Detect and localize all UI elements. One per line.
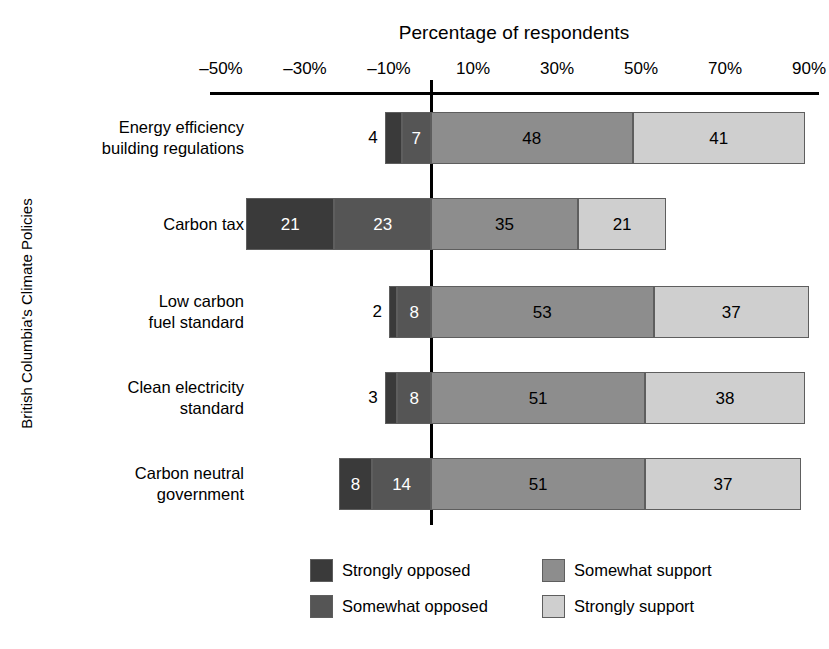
bar-segment (385, 112, 402, 164)
bar-row: 8145137 (0, 458, 829, 510)
legend-swatch-icon (310, 559, 333, 582)
bar-segment: 7 (402, 112, 431, 164)
bar-segment: 8 (339, 458, 373, 510)
bar-segment: 51 (431, 372, 645, 424)
bar-segment: 21 (578, 198, 666, 250)
legend-label: Somewhat opposed (342, 597, 488, 616)
chart-legend: Strongly opposedSomewhat supportSomewhat… (310, 552, 750, 624)
bar-segment: 48 (431, 112, 633, 164)
bar-segment-value-label: 2 (349, 286, 389, 338)
bar-segment: 21 (246, 198, 334, 250)
bar-segment: 8 (397, 286, 431, 338)
legend-swatch-icon (542, 595, 565, 618)
bar-segment: 41 (633, 112, 805, 164)
bar-segment: 53 (431, 286, 654, 338)
legend-label: Somewhat support (574, 561, 712, 580)
bar-segment: 14 (372, 458, 431, 510)
bar-row: 385138 (0, 372, 829, 424)
legend-item[interactable]: Strongly support (542, 595, 750, 618)
bar-row: 21233521 (0, 198, 829, 250)
bar-segment: 8 (397, 372, 431, 424)
bar-segment: 37 (645, 458, 800, 510)
bar-segment: 35 (431, 198, 578, 250)
legend-item[interactable]: Strongly opposed (310, 559, 542, 582)
bar-segment: 37 (654, 286, 809, 338)
bar-segment (389, 286, 397, 338)
legend-item[interactable]: Somewhat support (542, 559, 750, 582)
bar-segment (385, 372, 398, 424)
legend-label: Strongly support (574, 597, 694, 616)
legend-label: Strongly opposed (342, 561, 470, 580)
legend-item[interactable]: Somewhat opposed (310, 595, 542, 618)
bar-segment-value-label: 4 (345, 112, 385, 164)
legend-swatch-icon (542, 559, 565, 582)
bar-segment: 38 (645, 372, 805, 424)
legend-swatch-icon (310, 595, 333, 618)
bar-row: 285337 (0, 286, 829, 338)
bar-segment: 23 (334, 198, 431, 250)
bar-segment: 51 (431, 458, 645, 510)
bar-row: 474841 (0, 112, 829, 164)
bar-segment-value-label: 3 (345, 372, 385, 424)
diverging-stacked-bar-chart: Percentage of respondents British Columb… (0, 0, 829, 649)
